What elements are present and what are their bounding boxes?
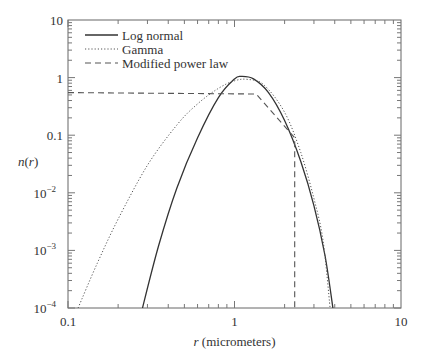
y-tick-label: 1	[57, 71, 64, 86]
x-axis-label: r (micrometers)	[194, 334, 276, 349]
y-tick-label: 10	[50, 13, 63, 28]
x-tick-label: 0.1	[60, 314, 76, 329]
series-gamma	[78, 79, 330, 308]
x-tick-label: 1	[231, 314, 238, 329]
legend-label: Gamma	[122, 42, 163, 57]
y-axis-label: n(r)	[18, 154, 38, 169]
x-tick-label: 10	[395, 314, 408, 329]
series-modified-power-law	[68, 93, 295, 308]
chart: 0.11101010.110−210−310−4r (micrometers)n…	[0, 0, 424, 355]
y-tick-label: 10−3	[33, 241, 56, 258]
legend: Log normalGammaModified power law	[85, 28, 229, 71]
legend-label: Modified power law	[122, 56, 229, 71]
legend-label: Log normal	[122, 28, 183, 43]
y-tick-label: 0.1	[47, 128, 63, 143]
y-tick-label: 10−2	[33, 184, 56, 201]
series-log-normal	[143, 76, 333, 308]
y-ticks	[68, 23, 401, 308]
y-tick-label: 10−4	[33, 299, 56, 316]
